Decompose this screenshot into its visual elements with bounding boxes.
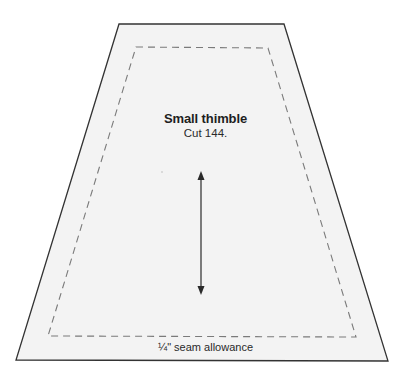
pattern-template — [0, 0, 411, 384]
speck — [161, 171, 163, 173]
template-title: Small thimble — [0, 111, 411, 126]
seam-allowance-label: ¼" seam allowance — [0, 341, 411, 353]
template-outline — [16, 24, 388, 361]
cut-instruction: Cut 144. — [0, 127, 411, 139]
